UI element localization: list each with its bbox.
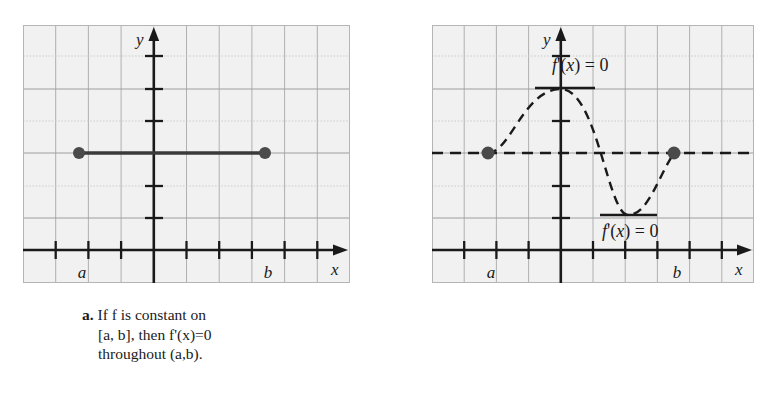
tangent-annotation-top-b: f'(x) = 0 (552, 55, 608, 76)
caption-a-text3: throughout (a,b). (98, 345, 203, 362)
y-axis-label-a: y (134, 30, 144, 49)
endpoint-dot-a-left (73, 147, 85, 159)
caption-a-text1: If f is constant on (98, 306, 206, 323)
plot-area-a: y x a b (23, 25, 350, 283)
plot-area-b: y x a b f'(x) = 0 f'(x) = 0 (432, 25, 754, 283)
tangent-annotation-bottom-b: f'(x) = 0 (602, 221, 658, 242)
rolles-theorem-figure: y x a b a. If f is constant on [a, b], t… (0, 0, 783, 398)
point-label-a-lower-b: a (487, 263, 496, 282)
coordinate-plane-b: y x a b f'(x) = 0 f'(x) = 0 (432, 25, 754, 283)
caption-a-line2: [a, b], then f'(x)=0 (82, 325, 312, 345)
caption-a-letter: a. (82, 306, 94, 323)
caption-a-line1: a. If f is constant on (82, 305, 312, 325)
y-axis-label-b: y (541, 30, 551, 49)
panel-a: y x a b a. If f is constant on [a, b], t… (0, 0, 392, 398)
x-axis-label-a: x (330, 260, 339, 279)
panel-b: y x a b f'(x) = 0 f'(x) = 0 b. If f is n… (392, 0, 783, 398)
coordinate-plane-a: y x a b (23, 25, 350, 283)
point-label-b-lower: b (264, 263, 273, 282)
point-label-b-lower-b: b (673, 263, 682, 282)
endpoint-dot-b-left (482, 147, 495, 160)
x-axis-label-b: x (734, 260, 743, 279)
point-label-a-lower: a (78, 263, 87, 282)
caption-a-text2: [a, b], then f'(x)=0 (98, 326, 212, 343)
endpoint-dot-b-right (668, 147, 681, 160)
caption-a: a. If f is constant on [a, b], then f'(x… (82, 305, 312, 364)
endpoint-dot-a-right (259, 147, 271, 159)
caption-a-line3: throughout (a,b). (82, 344, 312, 364)
